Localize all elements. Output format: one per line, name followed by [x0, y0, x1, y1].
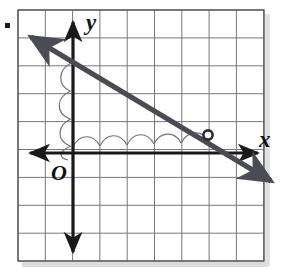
coordinate-plane-figure: y x O [0, 0, 287, 271]
x-axis-label: x [258, 127, 271, 152]
y-axis-label: y [83, 10, 97, 35]
origin-label: O [51, 160, 67, 185]
plotted-point[interactable] [203, 130, 212, 139]
graph-canvas: y x O [0, 0, 287, 271]
item-bullet-icon [5, 23, 10, 28]
grid-panel [18, 10, 264, 261]
